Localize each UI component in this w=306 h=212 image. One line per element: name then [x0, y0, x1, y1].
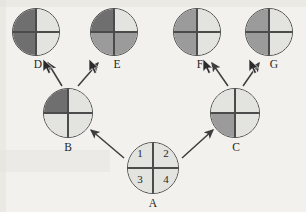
quadrant-g-tl[interactable]: [246, 9, 269, 32]
quadrant-d-tr[interactable]: [36, 9, 59, 32]
circle-g[interactable]: [245, 8, 293, 56]
quadrant-g-bl[interactable]: [246, 32, 269, 55]
quadrant-e-br[interactable]: [114, 32, 137, 55]
arrow-a-to-c: [182, 130, 213, 158]
quadrant-a-bl[interactable]: 3: [128, 168, 153, 193]
quadrant-g-br[interactable]: [269, 32, 292, 55]
quadrant-d-tl[interactable]: [13, 9, 36, 32]
mouse-pointer-icon: [202, 58, 215, 75]
quadrant-a-br[interactable]: 4: [153, 168, 178, 193]
circle-d[interactable]: [12, 8, 60, 56]
node-label-a: A: [141, 198, 165, 210]
mouse-pointer-icon: [88, 58, 101, 75]
node-label-e: E: [105, 59, 129, 71]
node-label-g: G: [262, 59, 286, 71]
quadrant-e-bl[interactable]: [91, 32, 114, 55]
quadrant-number-2: 2: [154, 148, 178, 159]
diagram-canvas: DEFGBC1234A: [0, 0, 306, 212]
circle-b[interactable]: [43, 88, 93, 138]
quadrant-number-3: 3: [128, 174, 152, 185]
mouse-pointer-icon: [42, 58, 55, 75]
quadrant-number-1: 1: [128, 148, 152, 159]
quadrant-f-tr[interactable]: [197, 9, 220, 32]
quadrant-b-br[interactable]: [68, 113, 92, 137]
quadrant-number-4: 4: [154, 174, 178, 185]
quadrant-f-bl[interactable]: [174, 32, 197, 55]
quadrant-b-tr[interactable]: [68, 89, 92, 113]
quadrant-a-tl[interactable]: 1: [128, 143, 153, 168]
quadrant-f-br[interactable]: [197, 32, 220, 55]
quadrant-d-br[interactable]: [36, 32, 59, 55]
quadrant-g-tr[interactable]: [269, 9, 292, 32]
circle-e[interactable]: [90, 8, 138, 56]
quadrant-b-tl[interactable]: [44, 89, 68, 113]
node-label-b: B: [56, 142, 80, 154]
quadrant-a-tr[interactable]: 2: [153, 143, 178, 168]
node-label-c: C: [224, 142, 248, 154]
circle-f[interactable]: [173, 8, 221, 56]
quadrant-e-tr[interactable]: [114, 9, 137, 32]
quadrant-f-tl[interactable]: [174, 9, 197, 32]
circle-a[interactable]: 1234: [127, 142, 179, 194]
quadrant-c-br[interactable]: [235, 113, 259, 137]
circle-c[interactable]: [210, 88, 260, 138]
quadrant-c-tr[interactable]: [235, 89, 259, 113]
paper-artifact-top: [0, 0, 306, 7]
quadrant-e-tl[interactable]: [91, 9, 114, 32]
mouse-pointer-icon: [248, 58, 261, 75]
paper-artifact-left: [0, 0, 6, 212]
quadrant-c-bl[interactable]: [211, 113, 235, 137]
quadrant-d-bl[interactable]: [13, 32, 36, 55]
quadrant-b-bl[interactable]: [44, 113, 68, 137]
paper-artifact-band: [0, 150, 110, 172]
quadrant-c-tl[interactable]: [211, 89, 235, 113]
